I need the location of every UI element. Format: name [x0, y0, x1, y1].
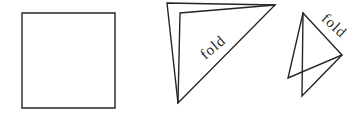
step-second-fold: fold	[288, 10, 350, 96]
second-fold-label: fold	[319, 10, 351, 41]
step-first-fold: fold	[167, 3, 275, 103]
step-square	[22, 13, 115, 108]
first-fold-label: fold	[197, 32, 229, 62]
paper-folding-diagram: fold fold	[0, 0, 360, 118]
square-outline	[22, 13, 115, 108]
first-fold-triangle-outline	[167, 3, 275, 103]
folding-steps-canvas: fold fold	[0, 0, 360, 118]
